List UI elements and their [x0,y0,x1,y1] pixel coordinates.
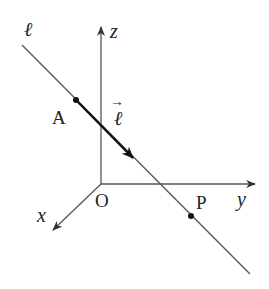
line-l [22,45,250,274]
direction-vector [76,100,133,158]
vector-arrow-accent: → [110,94,124,109]
y-axis-label: y [235,188,246,211]
diagram-canvas: ℓ z y x O A P ℓ → [0,0,269,289]
point-a-label: A [52,107,66,128]
origin-label: O [95,190,109,211]
x-axis-label: x [36,204,46,226]
vector-l-label: ℓ [114,107,123,129]
point-p-dot [188,213,194,219]
z-axis-label: z [109,20,118,42]
point-p-label: P [196,192,207,213]
line-l-label: ℓ [24,18,33,40]
point-a-dot [73,97,79,103]
x-axis [53,184,101,230]
